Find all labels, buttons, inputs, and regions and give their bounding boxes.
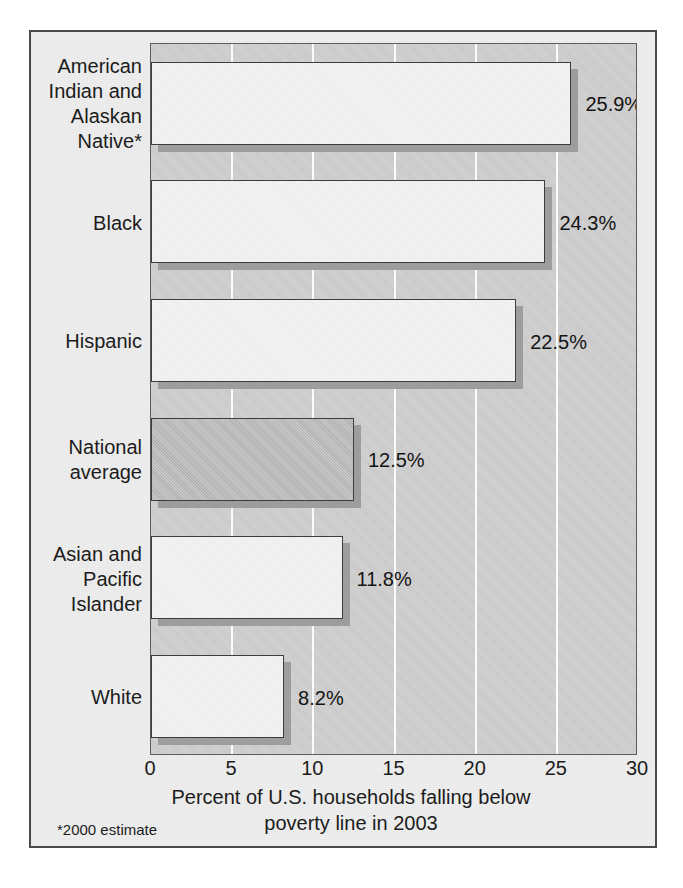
bar[interactable] <box>151 180 545 263</box>
category-label-line: White <box>91 685 142 710</box>
x-axis-title-line-2: poverty line in 2003 <box>91 810 611 836</box>
bar-value-label: 25.9% <box>585 94 637 114</box>
category-label-line: Islander <box>53 592 142 617</box>
category-label-line: Black <box>93 211 142 236</box>
x-tick-label: 15 <box>382 758 404 778</box>
bar-value-label: 12.5% <box>368 450 425 470</box>
category-label-line: Asian and <box>53 542 142 567</box>
category-label: White <box>91 685 142 710</box>
x-tick-label: 0 <box>144 758 155 778</box>
category-label: Nationalaverage <box>69 435 142 485</box>
x-tick-label: 30 <box>626 758 648 778</box>
category-label: Black <box>93 211 142 236</box>
category-axis: AmericanIndian andAlaskanNative*BlackHis… <box>31 45 150 755</box>
bar-row: 25.9% <box>151 44 637 163</box>
bar[interactable] <box>151 299 516 382</box>
bar[interactable] <box>151 418 354 501</box>
category-label-line: American <box>49 54 142 79</box>
category-label-line: Native* <box>49 129 142 154</box>
bar-row: 12.5% <box>151 400 637 519</box>
bar[interactable] <box>151 655 284 738</box>
category-label: Asian andPacificIslander <box>53 542 142 617</box>
bar-value-label: 11.8% <box>357 569 412 589</box>
footnote: *2000 estimate <box>57 822 157 837</box>
x-tick-label: 20 <box>464 758 486 778</box>
x-tick-label: 25 <box>545 758 567 778</box>
category-label-line: National <box>69 435 142 460</box>
bar[interactable] <box>151 536 343 619</box>
figure-frame: AmericanIndian andAlaskanNative*BlackHis… <box>29 30 657 848</box>
x-tick-label: 5 <box>226 758 237 778</box>
category-label-line: Hispanic <box>65 329 142 354</box>
bar[interactable] <box>151 62 571 145</box>
x-axis-tick-labels: 051015202530 <box>150 758 637 784</box>
category-label-line: Indian and <box>49 79 142 104</box>
bar-row: 8.2% <box>151 637 637 755</box>
plot-area: 25.9%24.3%22.5%12.5%11.8%8.2% <box>150 43 637 755</box>
category-label-line: Alaskan <box>49 104 142 129</box>
bar-row: 24.3% <box>151 163 637 282</box>
category-label-line: average <box>69 460 142 485</box>
x-tick-label: 10 <box>301 758 323 778</box>
bar-row: 11.8% <box>151 519 637 638</box>
x-axis-title-line-1: Percent of U.S. households falling below <box>91 784 611 810</box>
bar-value-label: 22.5% <box>530 332 587 352</box>
bar-value-label: 24.3% <box>559 213 616 233</box>
category-label: Hispanic <box>65 329 142 354</box>
category-label: AmericanIndian andAlaskanNative* <box>49 54 142 154</box>
x-axis-title: Percent of U.S. households falling below… <box>91 784 611 836</box>
bar-value-label: 8.2% <box>298 688 344 708</box>
bar-row: 22.5% <box>151 281 637 400</box>
category-label-line: Pacific <box>53 567 142 592</box>
